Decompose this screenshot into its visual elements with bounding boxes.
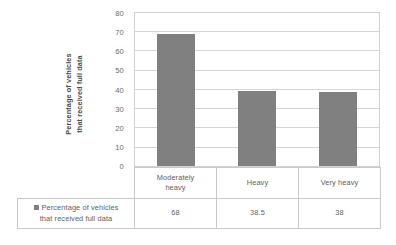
y-tick-label: 60 — [115, 47, 124, 56]
y-axis-title-line-2: that received full data — [75, 55, 86, 132]
y-axis-title: Percentage of vehicles that received ful… — [52, 24, 98, 164]
y-tick-label: 30 — [115, 105, 124, 114]
y-axis-title-line-1: Percentage of vehicles — [64, 53, 75, 134]
y-tick-label: 50 — [115, 66, 124, 75]
legend-label-line-2: that received full data — [18, 214, 134, 224]
category-label-line-1: Heavy — [247, 178, 268, 187]
y-tick-label: 40 — [115, 86, 124, 95]
category-header-heavy: Heavy — [217, 168, 299, 199]
value-cell-very-heavy: 38 — [299, 199, 381, 229]
y-tick-label: 10 — [115, 143, 124, 152]
chart-data-table: Moderately heavy Heavy Very heavy Percen… — [17, 167, 381, 229]
bar-slot-heavy — [216, 13, 297, 166]
bar-slot-very-heavy — [298, 13, 379, 166]
category-header-very-heavy: Very heavy — [299, 168, 381, 199]
y-tick-label: 70 — [115, 28, 124, 37]
legend-entry: Percentage of vehicles that received ful… — [18, 199, 135, 229]
bar-heavy — [238, 91, 276, 166]
bar-chart-figure: Percentage of vehicles that received ful… — [0, 0, 396, 245]
bar-slot-moderately-heavy — [135, 13, 216, 166]
bar-very-heavy — [319, 92, 357, 166]
y-tick-label: 80 — [115, 9, 124, 18]
y-axis-tick-labels: 80 70 60 50 40 30 20 10 0 — [100, 12, 128, 167]
value-cell-heavy: 38.5 — [217, 199, 299, 229]
table-row-values: Percentage of vehicles that received ful… — [18, 199, 381, 229]
legend-swatch-icon — [34, 205, 39, 210]
y-tick-label: 20 — [115, 124, 124, 133]
value-cell-moderately-heavy: 68 — [135, 199, 217, 229]
legend-label-line-1: Percentage of vehicles — [42, 203, 119, 212]
bar-moderately-heavy — [157, 34, 195, 166]
plot-area — [134, 12, 380, 167]
table-corner-cell — [18, 168, 135, 199]
legend-line-1: Percentage of vehicles — [18, 203, 134, 213]
legend-text: Percentage of vehicles that received ful… — [18, 203, 134, 224]
category-label-line-2: heavy — [165, 183, 185, 192]
category-header-moderately-heavy: Moderately heavy — [135, 168, 217, 199]
table-row-categories: Moderately heavy Heavy Very heavy — [18, 168, 381, 199]
category-label-line-1: Moderately — [157, 173, 195, 182]
category-label-line-1: Very heavy — [321, 178, 359, 187]
bars-layer — [135, 13, 379, 166]
